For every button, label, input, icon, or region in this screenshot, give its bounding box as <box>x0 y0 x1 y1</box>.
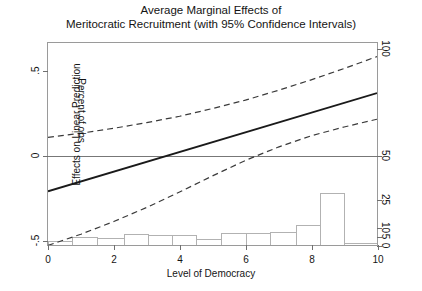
y-axis-tick <box>43 71 48 72</box>
x-axis-tick-label: 6 <box>231 254 261 265</box>
x-axis-tick <box>312 245 313 250</box>
y-axis-tick <box>43 241 48 242</box>
x-axis-tick <box>180 245 181 250</box>
lower-confidence-line <box>48 119 377 245</box>
upper-confidence-line <box>48 57 377 138</box>
x-axis-tick-label: 4 <box>165 254 195 265</box>
chart-title: Average Marginal Effects of Meritocratic… <box>0 3 422 31</box>
plot-frame: .5 0 -.5 100 50 25 10 5 0 0 2 4 6 8 10 E… <box>47 42 378 246</box>
average-marginal-effect-line <box>48 93 377 191</box>
plot-area <box>48 43 377 245</box>
y-axis-tick <box>43 156 48 157</box>
x-axis-tick <box>48 245 49 250</box>
x-axis-tick <box>114 245 115 250</box>
x-axis-tick-label: 2 <box>99 254 129 265</box>
x-axis-tick <box>378 245 379 250</box>
y2-axis-tick-label: 50 <box>380 136 391 176</box>
y-axis-tick-label: .5 <box>30 51 41 91</box>
x-axis-tick-label: 10 <box>363 254 393 265</box>
chart-title-line-2: Meritocratic Recruitment (with 95% Confi… <box>0 17 422 31</box>
y2-axis-tick-label: 100 <box>380 29 391 69</box>
y2-axis-title: Percent of obs <box>76 31 87 191</box>
regression-lines <box>48 43 377 245</box>
x-axis-tick-label: 8 <box>297 254 327 265</box>
x-axis-tick <box>246 245 247 250</box>
y-axis-tick-label: 0 <box>30 136 41 176</box>
x-axis-title: Level of Democracy <box>0 268 422 279</box>
chart-title-line-1: Average Marginal Effects of <box>0 3 422 17</box>
chart-root: Average Marginal Effects of Meritocratic… <box>0 0 422 291</box>
x-axis-tick-label: 0 <box>33 254 63 265</box>
